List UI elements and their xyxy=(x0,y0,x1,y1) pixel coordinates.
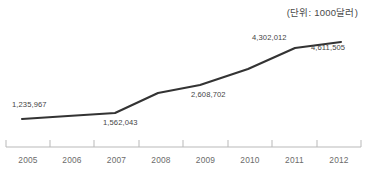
x-tick-label-2008: 2008 xyxy=(139,155,183,165)
data-line xyxy=(22,42,341,119)
data-label-2009: 2,608,702 xyxy=(191,90,226,99)
x-axis-ticks xyxy=(6,140,361,147)
plot-area xyxy=(0,0,368,179)
x-tick-label-2009: 2009 xyxy=(183,155,228,165)
x-tick-label-2006: 2006 xyxy=(50,155,94,165)
data-label-2011: 4,302,012 xyxy=(252,33,287,42)
data-label-2005: 1,235,967 xyxy=(12,100,47,109)
line-chart: (단위: 1000달러) 1,235,967 1,562,043 2,608,7… xyxy=(0,0,368,179)
x-tick-label-2012: 2012 xyxy=(317,155,361,165)
data-label-2012: 4,611,505 xyxy=(311,43,345,52)
data-label-2007: 1,562,043 xyxy=(103,118,138,127)
x-tick-label-2010: 2010 xyxy=(228,155,272,165)
x-tick-label-2005: 2005 xyxy=(6,155,50,165)
x-tick-label-2007: 2007 xyxy=(94,155,139,165)
x-tick-label-2011: 2011 xyxy=(272,155,317,165)
